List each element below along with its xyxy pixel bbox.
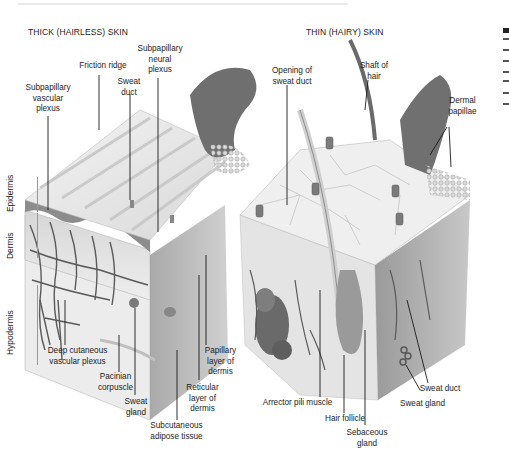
caption-fragment (503, 60, 509, 62)
caption-fragment (503, 103, 509, 105)
caption-fragment (503, 92, 509, 94)
label-hair-follicle: Hair follicle (315, 414, 375, 425)
label-sweat-duct-thick: Sweat duct (110, 77, 148, 98)
layer-label-epidermis: Epidermis (5, 175, 15, 212)
thin-skin-block (240, 40, 470, 400)
label-sweat-gland-thick: Sweat gland (118, 397, 154, 418)
layer-label-dermis: Dermis (5, 232, 15, 259)
label-sweat-gland-thin: Sweat gland (390, 399, 455, 410)
label-subpapillary-neural-plexus: Subpapillary neural plexus (130, 44, 190, 76)
label-opening-of-sweat-duct: Opening of sweat duct (262, 66, 322, 87)
dermis-bracket (37, 213, 38, 258)
caption-fragment (503, 71, 509, 73)
label-reticular-layer: Reticular layer of dermis (180, 383, 225, 415)
label-sweat-duct-thin: Sweat duct (410, 384, 470, 395)
caption-fragment (503, 80, 509, 82)
caption-fragment (503, 49, 509, 51)
thick-skin-title: THICK (HAIRLESS) SKIN (28, 27, 128, 37)
thin-skin-title: THIN (HAIRY) SKIN (306, 27, 384, 37)
label-pacinian-corpuscle: Pacinian corpuscle (88, 372, 143, 393)
caption-fragment (503, 28, 509, 33)
caption-fragment (503, 38, 509, 40)
label-subpapillary-vascular-plexus: Subpapillary vascular plexus (18, 83, 78, 115)
hypodermis-bracket (37, 285, 38, 365)
label-arrector-pili-muscle: Arrector pili muscle (250, 398, 345, 409)
label-sebaceous-gland: Sebaceous gland (342, 428, 392, 449)
label-friction-ridge: Friction ridge (68, 61, 138, 72)
epidermis-bracket (37, 177, 38, 212)
label-deep-cutaneous-vascular-plexus: Deep cutaneous vascular plexus (40, 346, 115, 367)
label-dermal-papillae: Dermal papillae (440, 96, 485, 117)
label-subcutaneous-adipose-tissue: Subcutaneous adipose tissue (134, 421, 219, 442)
label-papillary-layer: Papillary layer of dermis (198, 346, 243, 378)
layer-label-hypodermis: Hypodermis (5, 310, 15, 355)
label-shaft-of-hair: Shaft of hair (355, 61, 393, 82)
